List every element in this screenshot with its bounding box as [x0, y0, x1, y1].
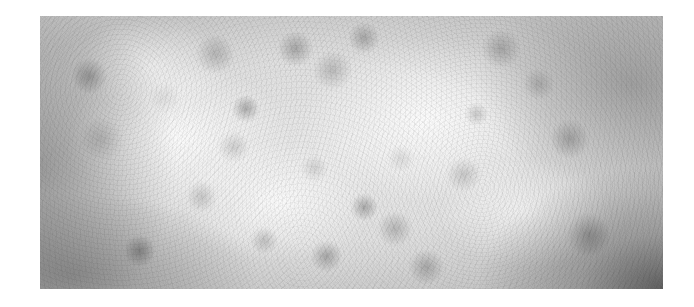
vignette-layer: [40, 16, 663, 289]
page-canvas: [0, 0, 694, 307]
texture-photo: [40, 16, 663, 289]
